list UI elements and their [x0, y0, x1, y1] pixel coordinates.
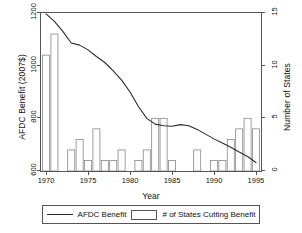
- xtick-label-1995: 1995: [241, 176, 271, 185]
- xtick-mark-1970: [46, 172, 47, 175]
- bar-1975: [85, 160, 92, 171]
- bar-1971: [51, 34, 58, 171]
- ytick-mark-right-0: [262, 170, 265, 171]
- ytick-mark-right-10: [262, 65, 265, 66]
- ytick-label-right-5: 5: [270, 106, 279, 128]
- bar-1992: [227, 139, 234, 171]
- legend-bar-label: # of States Cutting Benefit: [162, 210, 255, 219]
- ytick-mark-right-15: [262, 12, 265, 13]
- plot-area: [40, 12, 262, 172]
- ytick-label-right-15: 15: [270, 1, 279, 23]
- legend-line-label: AFDC Benefit: [78, 210, 127, 219]
- ytick-label-left-800: 800: [29, 104, 38, 130]
- ytick-label-right-10: 10: [270, 53, 279, 75]
- xtick-mark-1975: [88, 172, 89, 175]
- xtick-mark-1980: [130, 172, 131, 175]
- bar-1974: [76, 139, 83, 171]
- bar-1977: [101, 160, 108, 171]
- y-axis-right-title: Number of States: [282, 32, 292, 162]
- xtick-label-1985: 1985: [157, 176, 187, 185]
- bar-1993: [236, 129, 243, 171]
- xtick-label-1980: 1980: [115, 176, 145, 185]
- bar-1983: [152, 118, 159, 171]
- xtick-label-1990: 1990: [199, 176, 229, 185]
- bar-1991: [219, 160, 226, 171]
- bar-1981: [135, 160, 142, 171]
- plot-svg: [41, 13, 261, 171]
- bar-1988: [194, 150, 201, 171]
- bar-1995: [252, 129, 259, 171]
- ytick-mark-right-5: [262, 117, 265, 118]
- chart-figure: AFDC Benefit (2007$) Number of States Ye…: [0, 0, 302, 233]
- xtick-label-1975: 1975: [73, 176, 103, 185]
- y-axis-left-title: AFDC Benefit (2007$): [17, 32, 27, 162]
- bar-1973: [68, 150, 75, 171]
- bar-1990: [210, 160, 217, 171]
- xtick-mark-1985: [172, 172, 173, 175]
- bar-1985: [168, 160, 175, 171]
- legend-line-swatch: [47, 214, 73, 215]
- bar-1978: [110, 160, 117, 171]
- bar-1982: [143, 150, 150, 171]
- x-axis-title: Year: [40, 191, 262, 201]
- legend-bar-swatch: [131, 210, 157, 220]
- xtick-mark-1995: [256, 172, 257, 175]
- xtick-label-1970: 1970: [31, 176, 61, 185]
- bar-1994: [244, 118, 251, 171]
- chart-legend: AFDC Benefit # of States Cutting Benefit: [42, 205, 260, 224]
- bar-1979: [118, 150, 125, 171]
- ytick-label-left-1200: 1200: [29, 0, 38, 25]
- bars-group: [43, 34, 260, 171]
- bar-1970: [43, 55, 50, 171]
- ytick-label-left-1000: 1000: [29, 51, 38, 77]
- bar-1976: [93, 129, 100, 171]
- xtick-mark-1990: [214, 172, 215, 175]
